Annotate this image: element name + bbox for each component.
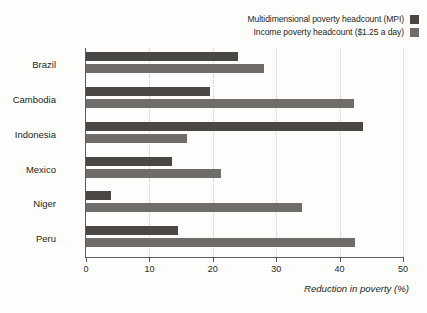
x-tick-label: 10 (144, 264, 154, 274)
bar-brazil-mpi (86, 52, 238, 61)
x-tick (340, 257, 341, 262)
x-tick (213, 257, 214, 262)
bar-peru-mpi (86, 226, 178, 235)
x-tick-label: 40 (335, 264, 345, 274)
legend-label-mpi: Multidimensional poverty headcount (MPI) (248, 14, 405, 24)
bar-group (86, 122, 403, 153)
category-label-cambodia: Cambodia (13, 94, 56, 105)
x-axis-title: Reduction in poverty (%) (304, 283, 409, 294)
bar-brazil-income (86, 64, 264, 73)
bar-peru-income (86, 238, 355, 247)
legend-label-income: Income poverty headcount ($1.25 a day) (253, 27, 404, 37)
category-label-peru: Peru (36, 233, 56, 244)
x-tick (149, 257, 150, 262)
x-tick (86, 257, 87, 262)
bar-group (86, 157, 403, 188)
x-tick-label: 50 (398, 264, 408, 274)
bar-indonesia-mpi (86, 122, 363, 131)
bar-group (86, 52, 403, 83)
bar-cambodia-mpi (86, 87, 210, 96)
bar-mexico-mpi (86, 157, 172, 166)
category-label-niger: Niger (33, 198, 56, 209)
chart-figure: Multidimensional poverty headcount (MPI)… (0, 0, 427, 313)
x-tick (403, 257, 404, 262)
bar-group (86, 191, 403, 222)
legend-swatch-mpi (410, 15, 419, 24)
plot-area: 01020304050BrazilCambodiaIndonesiaMexico… (86, 48, 403, 257)
bar-mexico-income (86, 169, 221, 178)
bar-group (86, 87, 403, 118)
category-label-brazil: Brazil (32, 59, 56, 70)
bar-group (86, 226, 403, 257)
x-tick-label: 30 (271, 264, 281, 274)
legend-item-mpi: Multidimensional poverty headcount (MPI) (248, 14, 420, 24)
bar-indonesia-income (86, 134, 187, 143)
gridline (403, 48, 405, 257)
bar-niger-mpi (86, 191, 111, 200)
x-tick-label: 20 (208, 264, 218, 274)
legend-swatch-income (410, 28, 419, 37)
x-axis-line (85, 257, 403, 258)
x-tick-label: 0 (83, 264, 88, 274)
category-label-indonesia: Indonesia (15, 129, 56, 140)
bar-cambodia-income (86, 99, 354, 108)
chart-legend: Multidimensional poverty headcount (MPI)… (248, 14, 420, 37)
bar-niger-income (86, 203, 302, 212)
x-tick (276, 257, 277, 262)
category-label-mexico: Mexico (26, 164, 56, 175)
legend-item-income: Income poverty headcount ($1.25 a day) (253, 27, 419, 37)
